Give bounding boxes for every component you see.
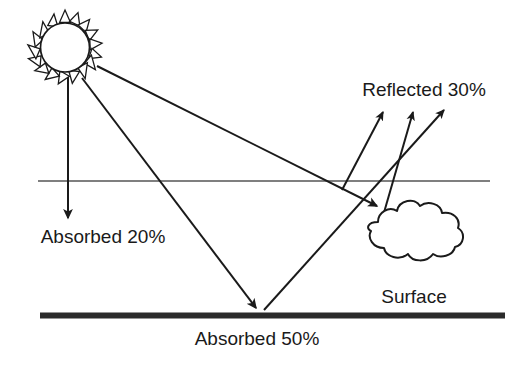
sun-icon: [28, 10, 102, 84]
ray-to-surface: [82, 78, 256, 308]
label-reflected: Reflected 30%: [362, 79, 486, 100]
cloud-icon: [368, 201, 463, 261]
label-surface: Surface: [381, 286, 446, 307]
radiation-budget-diagram: Absorbed 20% Reflected 30% Surface Absor…: [0, 0, 514, 365]
label-absorbed-surface: Absorbed 50%: [195, 328, 320, 349]
label-absorbed-atmosphere: Absorbed 20%: [41, 226, 166, 247]
reflected-arrow-1: [342, 112, 383, 190]
diagram-canvas: Absorbed 20% Reflected 30% Surface Absor…: [0, 0, 514, 365]
ray-to-cloud: [97, 66, 377, 206]
